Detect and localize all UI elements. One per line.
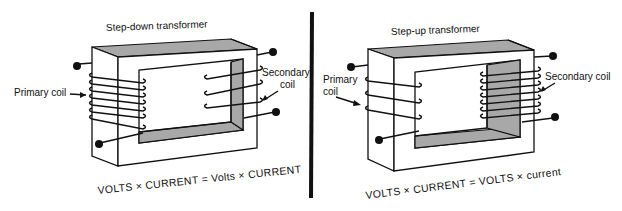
secondary-terminal-top (269, 48, 277, 56)
right-primary-label-2: coil (323, 86, 338, 97)
left-secondary-label-2: coil (280, 79, 295, 90)
right-secondary-label: Secondary coil (545, 71, 611, 82)
right-primary-label-1: Primary (323, 74, 357, 85)
transformer-diagram: Step-down transformer Primary coil Secon… (0, 0, 622, 211)
window-right-face (231, 59, 243, 130)
primary-terminal-bottom (95, 140, 103, 148)
secondary-terminal-bottom (272, 108, 280, 116)
primary-terminal-top (73, 62, 81, 70)
secondary-terminal-bottom (551, 113, 559, 121)
step-down-transformer: Step-down transformer Primary coil Secon… (14, 18, 310, 196)
panel-divider (311, 12, 312, 198)
step-down-title: Step-down transformer (106, 18, 209, 33)
secondary-terminal-top (549, 52, 557, 60)
window-right-face (487, 60, 520, 137)
primary-terminal-bottom (375, 136, 383, 144)
left-secondary-label-1: Secondary (262, 67, 310, 78)
step-down-equation: VOLTS × CURRENT = Volts × CURRENT (97, 163, 302, 196)
left-primary-label: Primary coil (14, 87, 66, 98)
step-up-title: Step-up transformer (391, 23, 481, 37)
step-up-transformer: Step-up transformer Primary coil Seconda… (323, 23, 611, 201)
primary-terminal-top (347, 63, 355, 71)
